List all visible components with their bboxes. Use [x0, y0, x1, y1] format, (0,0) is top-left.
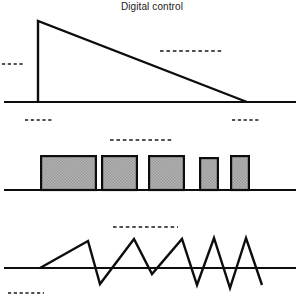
pulse-bar	[231, 156, 249, 190]
pulse-panel	[4, 140, 296, 190]
figure-root: Digital control	[0, 0, 304, 303]
ramp-panel	[2, 21, 296, 120]
pulse-bar	[102, 156, 137, 190]
pulse-bar	[200, 158, 218, 190]
pulse-bar	[41, 156, 96, 190]
sawtooth-waveform	[40, 238, 262, 288]
waveform-diagram	[0, 0, 304, 303]
pulse-bar	[149, 156, 184, 190]
sawtooth-panel	[4, 227, 296, 293]
ramp-waveform	[38, 21, 247, 102]
